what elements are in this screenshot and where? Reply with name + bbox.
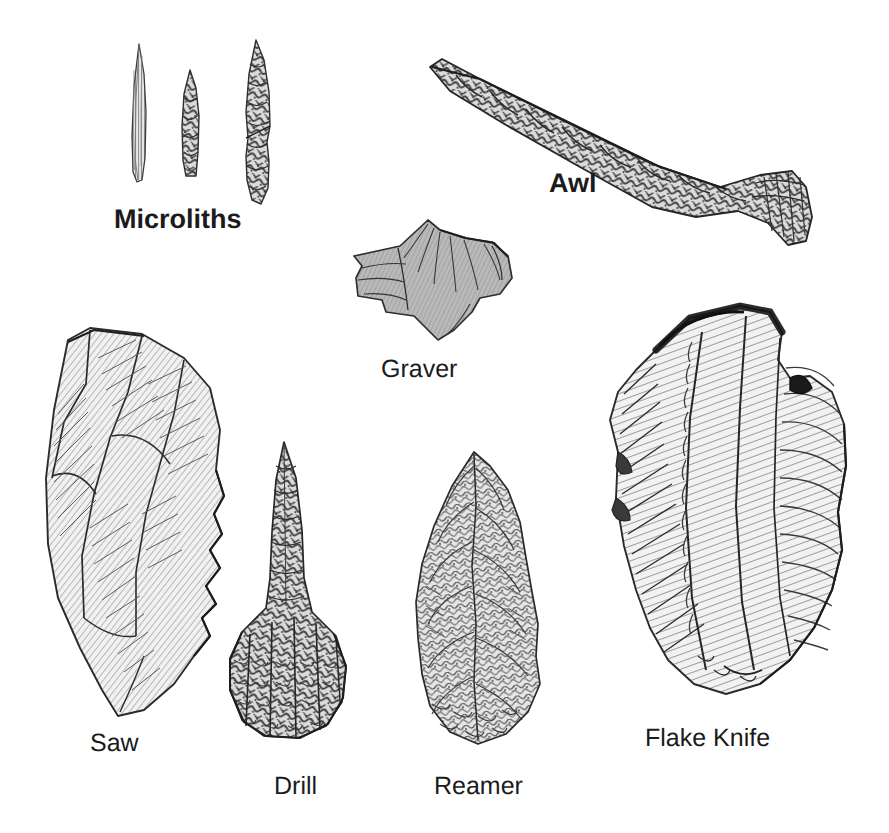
artifact-reamer — [396, 446, 551, 766]
artifact-drill — [216, 436, 371, 766]
illustration-plate: Microliths Awl — [0, 0, 889, 833]
label-saw: Saw — [90, 731, 139, 756]
artifact-saw — [24, 318, 239, 728]
label-graver: Graver — [381, 357, 457, 382]
artifact-microlith-1 — [120, 40, 164, 190]
label-flake-knife: Flake Knife — [645, 726, 770, 751]
artifact-microlith-3 — [234, 34, 298, 210]
label-drill: Drill — [274, 774, 317, 799]
label-awl: Awl — [549, 170, 597, 197]
artifact-flake-knife — [594, 298, 869, 723]
artifact-graver — [340, 212, 530, 352]
label-reamer: Reamer — [434, 774, 523, 799]
label-microliths: Microliths — [114, 206, 242, 233]
artifact-microlith-2 — [172, 64, 216, 188]
